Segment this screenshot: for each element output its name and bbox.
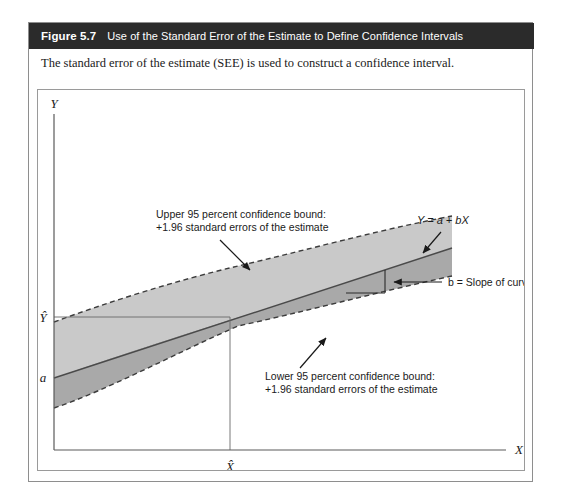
- lower-bound-annotation-line1: Lower 95 percent confidence bound:: [265, 370, 435, 382]
- figure-caption: The standard error of the estimate (SEE)…: [41, 56, 521, 71]
- figure-frame: Figure 5.7 Use of the Standard Error of …: [28, 22, 533, 482]
- plot-area: Y X Ŷ a X̂ Upper 95 percent confidence b…: [37, 89, 525, 471]
- xhat-axis-tick-label: X̂: [225, 459, 235, 470]
- intercept-axis-label: a: [40, 370, 47, 385]
- figure-header: Figure 5.7 Use of the Standard Error of …: [29, 23, 534, 49]
- slope-annotation: b = Slope of curve: [448, 276, 524, 288]
- yhat-axis-tick-label: Ŷ: [39, 310, 48, 325]
- confidence-interval-chart: Y X Ŷ a X̂ Upper 95 percent confidence b…: [38, 90, 524, 470]
- upper-bound-annotation-line2: +1.96 standard errors of the estimate: [156, 221, 329, 233]
- x-axis-label: X: [514, 442, 524, 457]
- upper-confidence-band-fill: [54, 216, 452, 378]
- lower-bound-annotation-line2: +1.96 standard errors of the estimate: [265, 383, 438, 395]
- upper-bound-annotation-line1: Upper 95 percent confidence bound:: [156, 208, 326, 220]
- y-axis-label: Y: [50, 96, 59, 111]
- figure-title: Use of the Standard Error of the Estimat…: [107, 30, 463, 42]
- lower-bound-annotation-arrow: [300, 338, 326, 368]
- upper-bound-annotation-arrow: [220, 240, 250, 270]
- regression-equation-annotation: Y = a + bX: [417, 214, 469, 226]
- figure-number: Figure 5.7: [41, 30, 96, 42]
